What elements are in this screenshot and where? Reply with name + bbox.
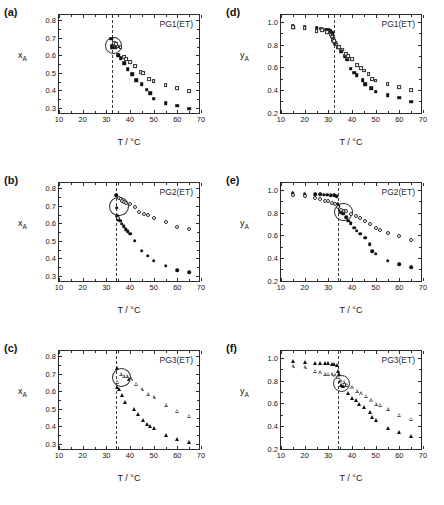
data-point: [152, 216, 156, 220]
data-point: [115, 206, 119, 210]
x-tick-mark-top: [154, 183, 155, 186]
x-tick-minor-top: [166, 351, 167, 353]
x-tick-minor-top: [340, 183, 341, 185]
y-tick-minor-right: [419, 269, 421, 270]
data-point: [349, 222, 353, 226]
x-tick-minor: [166, 111, 167, 113]
x-tick-minor-top: [71, 15, 72, 17]
y-tick-mark-right: [196, 356, 199, 357]
y-tick-minor-right: [197, 99, 199, 100]
x-tick-minor-top: [388, 351, 389, 353]
x-tick-minor-top: [317, 351, 318, 353]
x-tick-label: 60: [173, 115, 181, 124]
y-tick-minor: [281, 437, 283, 438]
y-tick-minor: [281, 224, 283, 225]
x-tick-mark-top: [59, 15, 60, 18]
y-tick-mark: [281, 235, 284, 236]
x-tick-mark: [177, 446, 178, 449]
data-point: [368, 243, 372, 247]
data-point: [133, 64, 137, 68]
y-tick-minor: [59, 29, 61, 30]
data-point: [409, 238, 413, 242]
x-axis-label-d: T / °C: [280, 137, 422, 147]
y-tick-label: 0.8: [268, 40, 278, 49]
data-point: [303, 360, 307, 364]
y-tick-mark: [281, 358, 284, 359]
y-tick-minor: [59, 365, 61, 366]
data-point: [362, 69, 366, 73]
x-tick-label: 70: [419, 451, 427, 460]
x-tick-minor-top: [364, 183, 365, 185]
x-tick-mark: [281, 278, 282, 281]
y-tick-mark-right: [418, 22, 421, 23]
y-tick-mark-right: [418, 281, 421, 282]
x-tick-mark-top: [83, 183, 84, 186]
panel-f: (f)PG3(ET)0.20.40.60.81.010203040506070y…: [222, 336, 444, 504]
data-point: [409, 88, 413, 92]
y-tick-label: 1.0: [268, 17, 278, 26]
y-tick-label: 0.6: [46, 51, 56, 60]
y-tick-minor: [59, 47, 61, 48]
x-tick-label: 60: [395, 451, 403, 460]
data-point: [164, 264, 168, 268]
x-tick-minor: [364, 279, 365, 281]
data-point: [134, 382, 138, 386]
x-tick-minor-top: [364, 15, 365, 17]
y-tick-label: 0.3: [46, 271, 56, 280]
x-tick-mark: [130, 110, 131, 113]
data-point: [125, 374, 129, 378]
x-tick-minor-top: [293, 351, 294, 353]
data-point: [318, 370, 322, 374]
x-tick-minor: [189, 111, 190, 113]
x-tick-mark-top: [399, 15, 400, 18]
x-tick-minor: [411, 111, 412, 113]
data-point: [117, 387, 121, 391]
data-point: [374, 79, 378, 83]
x-tick-mark: [281, 446, 282, 449]
y-tick-mark-right: [418, 90, 421, 91]
data-point: [126, 68, 130, 72]
data-point: [378, 228, 382, 232]
x-tick-label: 70: [419, 283, 427, 292]
data-point: [374, 90, 378, 94]
y-tick-mark-right: [196, 276, 199, 277]
data-point: [176, 104, 180, 108]
x-axis-label-f: T / °C: [280, 473, 422, 483]
data-point: [109, 37, 113, 41]
x-tick-minor-top: [71, 351, 72, 353]
x-tick-mark-top: [352, 351, 353, 354]
x-tick-mark-top: [83, 351, 84, 354]
x-tick-mark-top: [201, 351, 202, 354]
panel-a: (a)PG1(ET)0.30.40.50.60.70.8102030405060…: [0, 0, 222, 168]
x-tick-minor: [142, 279, 143, 281]
data-point: [321, 28, 325, 32]
y-axis-subscript: A: [245, 391, 249, 398]
x-tick-mark-top: [352, 15, 353, 18]
data-point: [349, 212, 353, 216]
x-tick-minor: [317, 447, 318, 449]
x-tick-mark: [59, 110, 60, 113]
x-tick-mark-top: [106, 351, 107, 354]
x-tick-minor: [364, 447, 365, 449]
x-tick-minor-top: [317, 15, 318, 17]
y-tick-label: 0.7: [46, 201, 56, 210]
x-tick-minor-top: [340, 15, 341, 17]
y-tick-label: 0.4: [46, 422, 56, 431]
y-tick-label: 1.0: [268, 185, 278, 194]
data-point: [291, 359, 295, 363]
data-point: [361, 78, 365, 82]
x-tick-minor-top: [95, 15, 96, 17]
x-tick-minor: [118, 447, 119, 449]
y-tick-mark: [59, 391, 62, 392]
x-tick-mark-top: [423, 351, 424, 354]
data-point: [318, 361, 322, 365]
x-tick-mark-top: [177, 15, 178, 18]
data-point: [355, 389, 359, 393]
y-tick-minor: [59, 267, 61, 268]
x-tick-label: 30: [324, 283, 332, 292]
x-tick-label: 50: [149, 115, 157, 124]
x-tick-minor: [293, 447, 294, 449]
data-point: [386, 259, 390, 263]
y-tick-minor-right: [197, 47, 199, 48]
x-tick-minor-top: [189, 351, 190, 353]
